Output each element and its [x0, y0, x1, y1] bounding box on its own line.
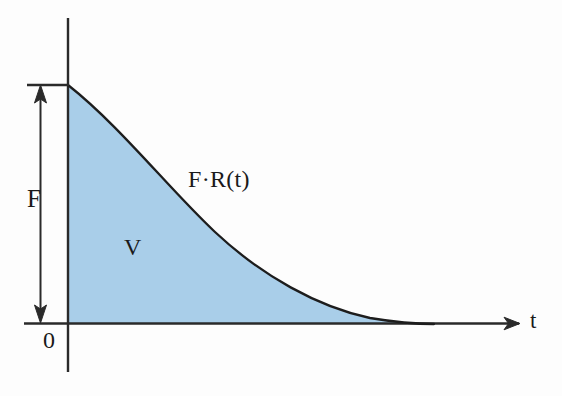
shaded-area-under-curve — [68, 85, 434, 324]
origin-label: 0 — [43, 328, 55, 352]
figure-canvas: F 0 t F·R(t) V — [0, 0, 562, 396]
height-measure-label-f: F — [27, 186, 41, 211]
diagram-svg — [0, 0, 562, 396]
area-label: V — [124, 235, 141, 259]
x-axis-label: t — [530, 309, 536, 332]
curve-label: F·R(t) — [188, 167, 250, 191]
